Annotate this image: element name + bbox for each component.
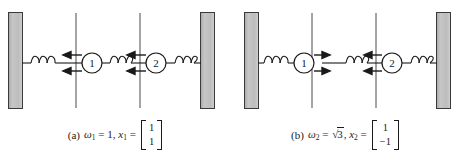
sqrt-expression-b: √3 (331, 129, 344, 140)
spring-3-a (175, 56, 197, 63)
vector-a-row-2: 1 (149, 135, 154, 149)
spring-3-b (411, 56, 433, 63)
mass-2-label-a: 2 (153, 57, 159, 69)
caption-a-label: (a) (68, 130, 80, 141)
spring-1-a (31, 56, 56, 63)
x-subscript-a: 1 (123, 133, 127, 142)
wall-left-b (245, 13, 259, 109)
vector-a: 1 1 (141, 120, 162, 150)
caption-b-label: (b) (291, 130, 304, 141)
mass-1-label-b: 1 (301, 57, 307, 69)
panel-b: 1 2 (b) ω2 (230, 0, 460, 168)
comma-a: , (113, 128, 116, 140)
equals-sign-b-1: = (322, 128, 328, 140)
spring-1-b (264, 56, 288, 63)
omega-subscript-b: 2 (316, 133, 320, 142)
x-subscript-b: 2 (354, 133, 358, 142)
sqrt-radicand-b: 3 (337, 127, 344, 140)
wall-right-a (201, 13, 215, 109)
comma-b: , (344, 128, 347, 140)
equals-sign-a-2: = (130, 128, 136, 140)
caption-a: (a) ω1 = 1, x1 = 1 1 (0, 120, 230, 150)
caption-a-equation: ω1 = 1, x1 = (84, 129, 136, 141)
figure-container: 1 2 (a) ω1 (0, 0, 460, 168)
vector-b-row-2: −1 (380, 135, 391, 149)
caption-b: (b) ω2 = √3, x2 = 1 −1 (230, 120, 460, 150)
spring-2-b (346, 56, 369, 63)
diagram-a: 1 2 (0, 0, 230, 120)
mass-1-label-a: 1 (89, 57, 95, 69)
equals-sign-b-2: = (361, 128, 367, 140)
vector-b-row-1: 1 (383, 121, 388, 135)
wall-left-a (9, 13, 23, 109)
mass-2-label-b: 2 (389, 57, 395, 69)
vector-b: 1 −1 (372, 120, 399, 150)
caption-b-equation: ω2 = √3, x2 = (308, 129, 367, 141)
omega-symbol-b: ω (308, 128, 316, 140)
vector-a-row-1: 1 (149, 121, 154, 135)
panel-a: 1 2 (a) ω1 (0, 0, 230, 168)
equals-sign-a-1: = (98, 128, 104, 140)
omega-subscript-a: 1 (92, 133, 96, 142)
omega-symbol-a: ω (84, 128, 92, 140)
wall-right-b (437, 13, 451, 109)
diagram-b: 1 2 (230, 0, 460, 120)
spring-2-a (110, 56, 133, 63)
